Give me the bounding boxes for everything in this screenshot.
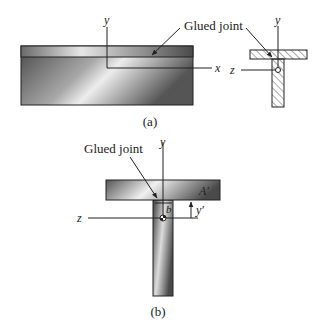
y-prime-label: y′ bbox=[195, 203, 204, 217]
area-label: A′ bbox=[198, 184, 209, 198]
section-z-label: z bbox=[229, 63, 235, 77]
glued-tbeam-diagram: y x Glued joint y z (a) y z A′ b bbox=[0, 0, 325, 334]
glued-joint-label-b: Glued joint bbox=[84, 141, 143, 156]
glued-joint-label-a: Glued joint bbox=[184, 18, 243, 33]
centroid-marker bbox=[276, 68, 281, 73]
y-axis-label: y bbox=[103, 13, 110, 27]
caption-b: (b) bbox=[150, 304, 165, 319]
figure-b: y z A′ b y′ Glued joint (b) bbox=[76, 135, 220, 319]
figure-a: y x Glued joint y z (a) bbox=[21, 13, 307, 129]
y-axis-label-b: y bbox=[159, 135, 166, 149]
width-label-b: b bbox=[166, 203, 172, 215]
x-axis-label: x bbox=[214, 61, 221, 75]
section-y-label: y bbox=[274, 13, 281, 27]
caption-a: (a) bbox=[143, 114, 157, 129]
z-axis-label-b: z bbox=[76, 211, 82, 225]
